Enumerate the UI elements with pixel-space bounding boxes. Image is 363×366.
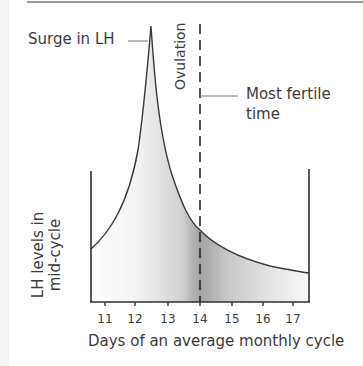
y-axis-label-line-1: LH levels in [30, 210, 47, 300]
most-fertile-label: Most fertile time [246, 84, 331, 124]
y-axis-label-line-2: mid-cycle [47, 210, 64, 300]
ovulation-label: Ovulation [172, 23, 188, 90]
fertile-line-1: Most fertile [246, 84, 331, 104]
y-axis-label: LH levels in mid-cycle [30, 210, 64, 300]
x-tick-16: 16 [253, 312, 273, 326]
lh-curve-area [91, 26, 309, 302]
x-tick-11: 11 [95, 312, 115, 326]
fertile-line-2: time [246, 104, 331, 124]
x-axis-label: Days of an average monthly cycle [88, 332, 344, 350]
surge-label: Surge in LH [28, 30, 115, 48]
x-tick-14: 14 [190, 312, 210, 326]
x-tick-13: 13 [158, 312, 178, 326]
x-tick-15: 15 [222, 312, 242, 326]
x-tick-12: 12 [125, 312, 145, 326]
x-tick-17: 17 [283, 312, 303, 326]
